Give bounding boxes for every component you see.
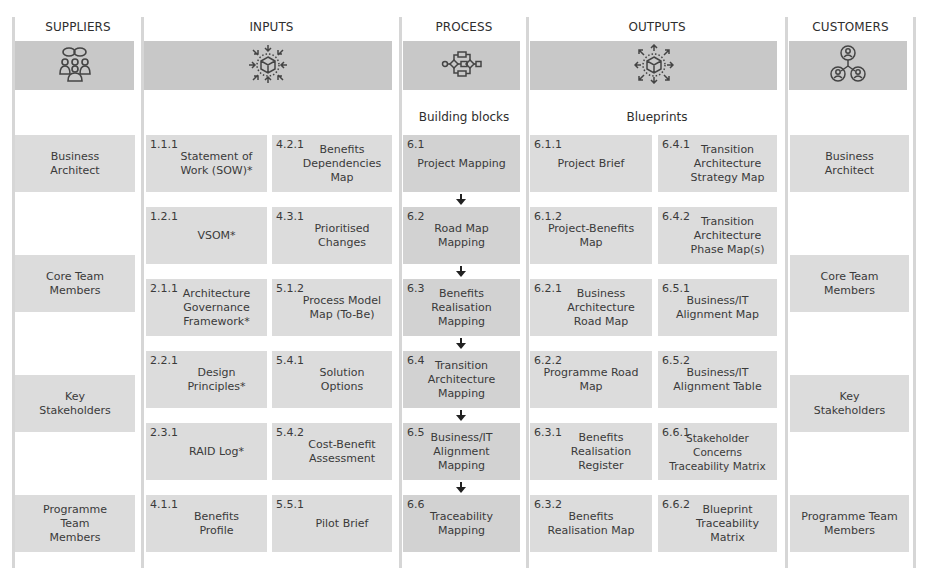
output-6-2-2: 6.2.2Programme Road Map	[530, 351, 652, 408]
column-separator	[399, 17, 402, 568]
column-separator	[785, 17, 788, 568]
column-header-inputs: INPUTS	[144, 20, 399, 38]
output-6-3-2: 6.3.2Benefits Realisation Map	[530, 495, 652, 552]
outputs-icon-band	[530, 41, 777, 90]
process-6-5: 6.5Business/IT Alignment Mapping	[403, 423, 520, 480]
input-4-3-1: 4.3.1Prioritised Changes	[272, 207, 392, 264]
flow-arrow-down-icon	[460, 266, 462, 272]
output-6-1-1: 6.1.1Project Brief	[530, 135, 652, 192]
input-4-2-1: 4.2.1Benefits Dependencies Map	[272, 135, 392, 192]
column-separator	[913, 17, 916, 568]
output-6-6-1: 6.6.1Stakeholder Concerns Traceability M…	[658, 423, 777, 480]
input-1-2-1: 1.2.1VSOM*	[146, 207, 267, 264]
outputs-subheading: Blueprints	[529, 110, 785, 128]
cube-inward-arrows-icon	[248, 44, 288, 88]
output-6-4-1: 6.4.1Transition Architecture Strategy Ma…	[658, 135, 777, 192]
output-6-5-2: 6.5.2Business/IT Alignment Table	[658, 351, 777, 408]
column-header-process: PROCESS	[402, 20, 526, 38]
supplier-business-architect: Business Architect	[15, 135, 135, 192]
flow-arrow-down-icon	[460, 410, 462, 416]
process-6-3: 6.3Benefits Realisation Mapping	[403, 279, 520, 336]
output-6-4-2: 6.4.2Transition Architecture Phase Map(s…	[658, 207, 777, 264]
output-6-2-1: 6.2.1Business Architecture Road Map	[530, 279, 652, 336]
people-group-icon	[55, 44, 95, 88]
customer-core-team-members: Core Team Members	[790, 255, 909, 312]
input-5-4-2: 5.4.2Cost-Benefit Assessment	[272, 423, 392, 480]
input-5-1-2: 5.1.2Process Model Map (To-Be)	[272, 279, 392, 336]
column-separator	[526, 17, 529, 568]
connected-users-icon	[828, 44, 868, 88]
process-subheading: Building blocks	[402, 110, 526, 128]
cube-outward-arrows-icon	[634, 44, 674, 88]
process-icon-band	[403, 41, 520, 90]
output-6-3-1: 6.3.1Benefits Realisation Register	[530, 423, 652, 480]
supplier-programme-team-members: Programme Team Members	[15, 495, 135, 552]
inputs-icon-band	[144, 41, 392, 90]
customer-key-stakeholders: Key Stakeholders	[790, 375, 909, 432]
process-flow-icon	[438, 44, 486, 88]
supplier-core-team-members: Core Team Members	[15, 255, 135, 312]
customer-business-architect: Business Architect	[790, 135, 909, 192]
input-1-1-1: 1.1.1Statement of Work (SOW)*	[146, 135, 267, 192]
output-6-1-2: 6.1.2Project-Benefits Map	[530, 207, 652, 264]
process-6-6: 6.6Traceability Mapping	[403, 495, 520, 552]
supplier-key-stakeholders: Key Stakeholders	[15, 375, 135, 432]
customer-programme-team-members: Programme Team Members	[790, 495, 909, 552]
process-6-4: 6.4Transition Architecture Mapping	[403, 351, 520, 408]
input-2-3-1: 2.3.1RAID Log*	[146, 423, 267, 480]
input-2-2-1: 2.2.1Design Principles*	[146, 351, 267, 408]
flow-arrow-down-icon	[460, 482, 462, 488]
input-5-5-1: 5.5.1Pilot Brief	[272, 495, 392, 552]
output-6-6-2: 6.6.2Blueprint Traceability Matrix	[658, 495, 777, 552]
column-header-outputs: OUTPUTS	[529, 20, 785, 38]
column-separator	[141, 17, 144, 568]
flow-arrow-down-icon	[460, 194, 462, 200]
process-6-1: 6.1Project Mapping	[403, 135, 520, 192]
column-header-suppliers: SUPPLIERS	[15, 20, 141, 38]
column-header-customers: CUSTOMERS	[788, 20, 913, 38]
process-6-2: 6.2Road Map Mapping	[403, 207, 520, 264]
input-2-1-1: 2.1.1Architecture Governance Framework*	[146, 279, 267, 336]
flow-arrow-down-icon	[460, 338, 462, 344]
input-4-1-1: 4.1.1Benefits Profile	[146, 495, 267, 552]
suppliers-icon-band	[15, 41, 134, 90]
input-5-4-1: 5.4.1Solution Options	[272, 351, 392, 408]
customers-icon-band	[789, 41, 907, 90]
output-6-5-1: 6.5.1Business/IT Alignment Map	[658, 279, 777, 336]
